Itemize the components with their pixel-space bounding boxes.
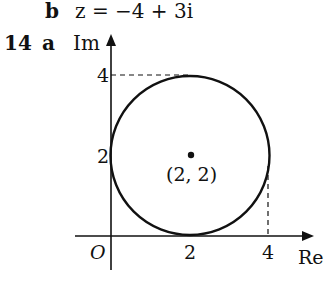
origin-label: O [90, 241, 106, 263]
argand-diagram [0, 0, 324, 287]
x-tick-2: 2 [184, 241, 196, 263]
im-axis-arrow-icon [106, 34, 116, 46]
y-tick-2: 2 [97, 145, 109, 167]
center-label: (2, 2) [166, 163, 217, 185]
y-tick-4: 4 [97, 64, 109, 86]
re-axis-label: Re [298, 246, 324, 268]
re-axis-arrow-icon [302, 231, 314, 241]
center-point [188, 152, 194, 158]
x-tick-4: 4 [262, 241, 274, 263]
